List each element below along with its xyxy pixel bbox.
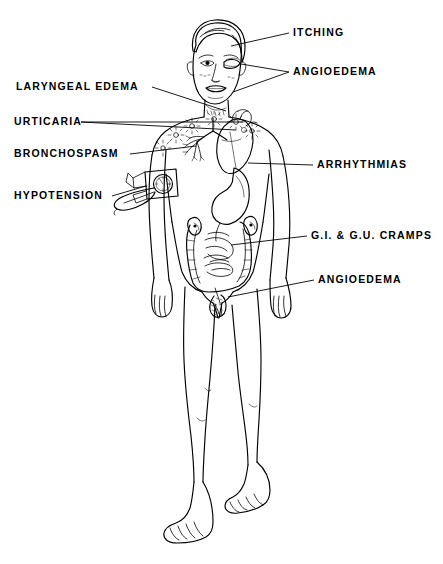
label-urticaria: URTICARIA — [14, 116, 82, 127]
label-hypotension: HYPOTENSION — [14, 190, 103, 201]
label-itching: ITCHING — [293, 27, 344, 38]
body-outline — [149, 20, 291, 543]
heart-organ — [217, 110, 257, 174]
label-laryngeal-edema: LARYNGEAL EDEMA — [16, 81, 139, 92]
blood-pressure-cuff — [114, 169, 178, 215]
intestines-organ — [187, 222, 252, 303]
label-angioedema-groin: ANGIOEDEMA — [318, 274, 402, 285]
kidneys-organ — [188, 216, 258, 235]
bronchial-tree — [183, 118, 227, 161]
label-angioedema-face: ANGIOEDEMA — [293, 66, 377, 77]
anaphylaxis-diagram: ITCHING ANGIOEDEMA ARRHYTHMIAS G.I. & G.… — [0, 0, 443, 564]
label-bronchospasm: BRONCHOSPASM — [14, 148, 119, 159]
genital-swelling — [210, 295, 226, 317]
leader-lines — [81, 33, 314, 297]
label-arrhythmias: ARRHYTHMIAS — [317, 159, 407, 170]
label-gi-gu-cramps: G.I. & G.U. CRAMPS — [311, 230, 432, 241]
